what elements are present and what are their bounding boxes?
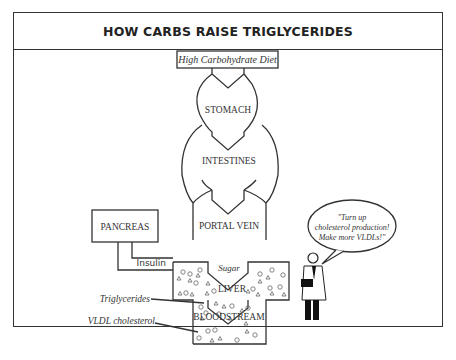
speech-line-1: "Turn up (338, 213, 366, 222)
flow-diagram: High Carbohydrate Diet STOMACH INTESTINE… (0, 0, 456, 360)
speech-line-2: cholesterol production! (315, 223, 390, 232)
portal-vein-label: PORTAL VEIN (199, 221, 259, 231)
triglycerides-label: Triglycerides (100, 294, 150, 304)
intestine-arrow (202, 180, 256, 214)
sugar-label: Sugar (218, 263, 240, 273)
intestines-label: INTESTINES (202, 156, 256, 166)
liver-shape (173, 262, 289, 344)
pancreas-label: PANCREAS (101, 222, 150, 232)
vldl-label: VLDL cholesterol (88, 316, 156, 326)
speech-line-3: Make more VLDLs!" (318, 233, 386, 242)
source-label: High Carbohydrate Diet (177, 54, 277, 65)
bloodstream-label: BLOODSTREAM (193, 312, 265, 322)
insulin-label: Insulin (137, 258, 166, 268)
stomach-label: STOMACH (205, 105, 251, 115)
liver-label: LIVER (218, 284, 247, 294)
